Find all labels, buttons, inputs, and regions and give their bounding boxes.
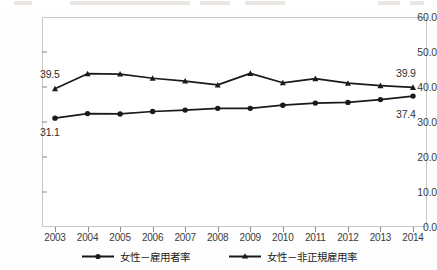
x-tick-label: 2014 [402, 232, 423, 243]
y-tick-mark [42, 87, 47, 88]
x-tick-label: 2003 [44, 232, 65, 243]
plot-area [42, 17, 427, 227]
legend-marker-circle-icon [81, 251, 115, 262]
scan-artifact-strip [0, 0, 437, 10]
y-tick-label: 40.0 [401, 81, 437, 93]
value-label-bottom-left: 31.1 [40, 126, 60, 138]
x-tick-label: 2005 [109, 232, 130, 243]
x-tick-label: 2009 [240, 232, 261, 243]
x-tick-label: 2012 [337, 232, 358, 243]
legend-label: 女性－非正規雇用率 [267, 249, 357, 264]
y-tick-mark [42, 157, 47, 158]
y-tick-mark [42, 52, 47, 53]
y-tick-label: 60.0 [401, 11, 437, 23]
legend-item-employment-rate[interactable]: 女性－雇用者率 [81, 249, 190, 264]
x-tick-label: 2006 [142, 232, 163, 243]
legend-item-nonregular-employment-rate[interactable]: 女性－非正規雇用率 [228, 249, 357, 264]
x-tick-label: 2004 [77, 232, 98, 243]
x-tick-label: 2007 [174, 232, 195, 243]
y-tick-label: 50.0 [401, 46, 437, 58]
y-tick-label: 20.0 [401, 151, 437, 163]
legend-marker-triangle-icon [228, 251, 262, 262]
x-tick-label: 2010 [272, 232, 293, 243]
chart-legend: 女性－雇用者率 女性－非正規雇用率 [0, 244, 437, 268]
value-label-bottom-right: 37.4 [396, 108, 416, 120]
legend-label: 女性－雇用者率 [120, 249, 190, 264]
value-label-top-right: 39.9 [396, 67, 416, 79]
chart-figure: 60.0 50.0 40.0 30.0 20.0 10.0 0.0 200320… [0, 0, 437, 270]
x-tick-label: 2008 [207, 232, 228, 243]
y-tick-mark [42, 122, 47, 123]
x-tick-label: 2013 [370, 232, 391, 243]
x-tick-label: 2011 [305, 232, 326, 243]
y-tick-label: 10.0 [401, 186, 437, 198]
value-label-top-left: 39.5 [40, 68, 60, 80]
y-tick-mark [42, 192, 47, 193]
